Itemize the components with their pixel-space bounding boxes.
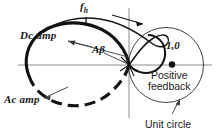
- label-fh-subscript: h: [84, 6, 88, 15]
- direction-arrow-icon: [112, 15, 143, 27]
- label-dc-amp: Dc amp: [20, 30, 56, 42]
- label-a-beta: Aβ: [92, 44, 105, 56]
- ac-amp-leader-line: [44, 87, 68, 101]
- ac-amp-dashed-arc: [29, 65, 129, 106]
- label-positive-feedback-line2: feedback: [148, 81, 191, 92]
- label-critical-point: 1,0: [166, 40, 180, 52]
- label-fh: fh: [80, 1, 88, 15]
- label-a-beta-symbol: β: [99, 43, 105, 55]
- label-unit-circle: Unit circle: [145, 119, 191, 130]
- label-positive-feedback: Positive feedback: [148, 70, 191, 92]
- critical-point-marker: [169, 61, 175, 67]
- axes-group: [18, 8, 212, 118]
- plot-canvas: [0, 0, 218, 136]
- label-ac-amp: Ac amp: [4, 94, 40, 106]
- nyquist-plot-figure: Dc amp Ac amp fh Aβ 1,0 Positive feedbac…: [0, 0, 218, 136]
